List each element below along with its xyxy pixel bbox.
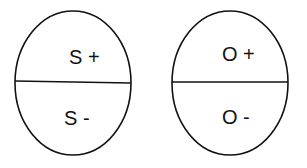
ellipse-o-outline [172,11,288,155]
ellipse-o: O + O - [172,11,288,155]
label-s-plus: S + [69,46,100,68]
diagram-canvas: S + S - O + O - [0,0,307,168]
ellipse-s-divider [15,81,131,83]
label-o-plus: O + [222,43,255,65]
label-s-minus: S - [64,107,90,129]
label-o-minus: O - [222,106,250,128]
ellipse-s: S + S - [15,11,131,155]
